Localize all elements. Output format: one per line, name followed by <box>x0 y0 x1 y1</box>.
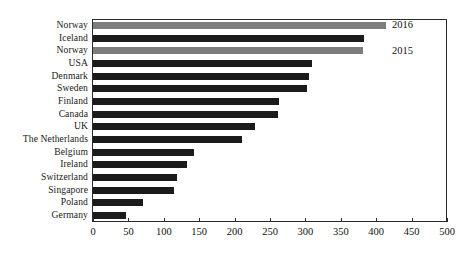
bar <box>93 73 309 80</box>
x-axis-tick-mark <box>164 218 165 222</box>
y-axis-tick-label: Canada <box>0 109 88 119</box>
legend-label-2015: 2015 <box>392 45 413 57</box>
x-axis-tick-label: 450 <box>392 226 432 238</box>
x-axis-tick-label: 0 <box>73 226 113 238</box>
bar <box>93 149 194 156</box>
x-axis-tick-label: 250 <box>250 226 290 238</box>
bar <box>93 35 364 42</box>
bar <box>93 187 174 194</box>
bar <box>93 174 177 181</box>
y-axis-tick-label: The Netherlands <box>0 134 88 144</box>
bar <box>93 98 279 105</box>
bar <box>93 161 187 168</box>
bar <box>93 123 255 130</box>
x-axis-tick-label: 350 <box>321 226 361 238</box>
y-axis-tick-label: USA <box>0 58 88 68</box>
x-axis-tick-mark <box>93 218 94 222</box>
y-axis-tick-label: Singapore <box>0 185 88 195</box>
x-axis-tick-mark <box>235 218 236 222</box>
bar <box>93 199 143 206</box>
x-axis-tick-mark <box>341 218 342 222</box>
y-axis-tick-label: Sweden <box>0 83 88 93</box>
y-axis-tick-label: UK <box>0 121 88 131</box>
bar <box>93 85 307 92</box>
y-axis-tick-label: Norway <box>0 20 88 30</box>
y-axis-tick-label: Iceland <box>0 33 88 43</box>
bar <box>93 47 363 54</box>
x-axis-tick-label: 150 <box>179 226 219 238</box>
x-axis-tick-mark <box>305 218 306 222</box>
x-axis-tick-mark <box>199 218 200 222</box>
x-axis-tick-label: 100 <box>144 226 184 238</box>
y-axis-tick-label: Germany <box>0 210 88 220</box>
x-axis-tick-mark <box>412 218 413 222</box>
bar <box>93 136 242 143</box>
bar-chart: NorwayIcelandNorwayUSADenmarkSwedenFinla… <box>0 0 470 259</box>
legend-label-2016: 2016 <box>392 19 413 31</box>
y-axis-tick-label: Poland <box>0 197 88 207</box>
y-axis-tick-label: Finland <box>0 96 88 106</box>
x-axis-tick-mark <box>447 218 448 222</box>
x-axis-tick-mark <box>270 218 271 222</box>
y-axis-tick-label: Denmark <box>0 71 88 81</box>
y-axis-tick-label: Norway <box>0 45 88 55</box>
x-axis-tick-label: 500 <box>427 226 467 238</box>
x-axis-tick-mark <box>376 218 377 222</box>
bar <box>93 212 126 219</box>
y-axis-tick-label: Ireland <box>0 159 88 169</box>
x-axis-tick-label: 400 <box>356 226 396 238</box>
bar <box>93 111 278 118</box>
y-axis-tick-label: Switzerland <box>0 172 88 182</box>
y-axis-category-labels: NorwayIcelandNorwayUSADenmarkSwedenFinla… <box>0 19 88 222</box>
y-axis-tick-label: Belgium <box>0 147 88 157</box>
x-axis-tick-label: 200 <box>215 226 255 238</box>
x-axis-tick-label: 300 <box>285 226 325 238</box>
bar <box>93 22 386 29</box>
x-axis-tick-label: 50 <box>108 226 148 238</box>
x-axis-tick-mark <box>128 218 129 222</box>
bar <box>93 60 312 67</box>
